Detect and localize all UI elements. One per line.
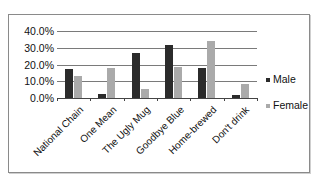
legend-item-male: Male bbox=[266, 73, 296, 85]
y-tick-label: 0.0% bbox=[0, 92, 54, 104]
x-tick bbox=[124, 98, 125, 101]
x-tick bbox=[224, 98, 225, 101]
y-tick-label: 20.0% bbox=[0, 59, 54, 71]
gridline bbox=[57, 81, 257, 82]
y-tick-label: 40.0% bbox=[0, 25, 54, 37]
female-swatch-icon bbox=[266, 104, 270, 108]
bar-male bbox=[132, 53, 140, 98]
legend-label-male: Male bbox=[273, 73, 296, 85]
gridline bbox=[57, 65, 257, 66]
x-tick bbox=[90, 98, 91, 101]
legend-item-female: Female bbox=[266, 99, 308, 111]
gridline bbox=[57, 31, 257, 32]
x-tick bbox=[257, 98, 258, 101]
plot-area bbox=[57, 31, 257, 98]
bar-female bbox=[241, 84, 249, 98]
bar-male bbox=[232, 95, 240, 98]
y-tick-label: 30.0% bbox=[0, 42, 54, 54]
bar-male bbox=[65, 69, 73, 98]
x-tick bbox=[57, 98, 58, 101]
legend-label-female: Female bbox=[273, 99, 308, 111]
y-tick-label: 10.0% bbox=[0, 75, 54, 87]
bar-male bbox=[165, 45, 173, 98]
x-tick bbox=[157, 98, 158, 101]
male-swatch-icon bbox=[266, 78, 270, 82]
bar-male bbox=[198, 68, 206, 98]
bar-female bbox=[174, 67, 182, 98]
bar-female bbox=[74, 76, 82, 98]
bar-female bbox=[141, 89, 149, 98]
x-tick bbox=[190, 98, 191, 101]
gridline bbox=[57, 48, 257, 49]
bar-female bbox=[207, 41, 215, 98]
bar-female bbox=[107, 68, 115, 98]
bar-male bbox=[98, 94, 106, 98]
